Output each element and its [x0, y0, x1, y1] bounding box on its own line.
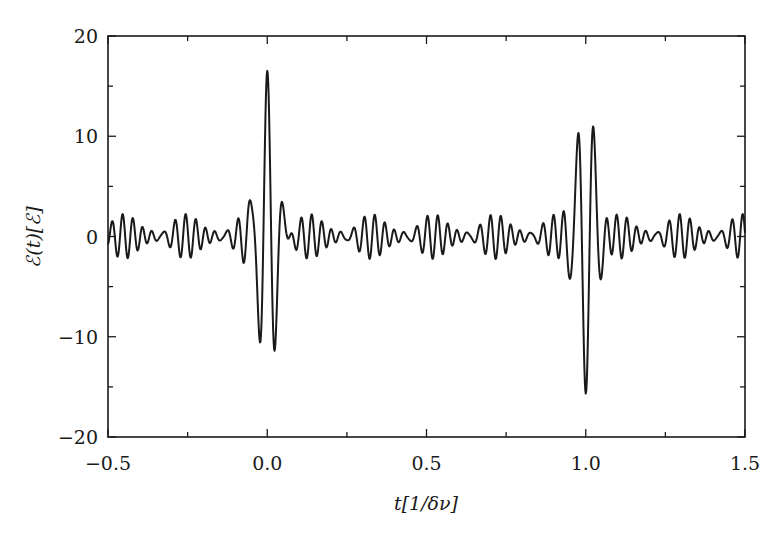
y-tick-label: −20 [58, 426, 98, 448]
x-tick-labels: −0.50.00.51.01.5 [85, 452, 760, 474]
x-tick-label: 1.5 [730, 452, 760, 474]
x-tick-label: 1.0 [571, 452, 601, 474]
x-tick-label: −0.5 [85, 452, 131, 474]
x-axis-label: t[1/δν] [394, 492, 459, 514]
y-tick-label: 20 [74, 25, 98, 47]
signal-line [108, 71, 745, 394]
x-tick-label: 0.0 [252, 452, 282, 474]
y-axis-label: ℰ(t)[ℰ] [22, 206, 44, 268]
y-tick-label: 0 [86, 226, 98, 248]
y-tick-labels: −20−1001020 [58, 25, 98, 448]
y-tick-label: 10 [74, 125, 98, 147]
y-tick-label: −10 [58, 326, 98, 348]
x-tick-label: 0.5 [411, 452, 441, 474]
line-chart: −0.50.00.51.01.5 −20−1001020 t[1/δν] ℰ(t… [0, 0, 777, 534]
